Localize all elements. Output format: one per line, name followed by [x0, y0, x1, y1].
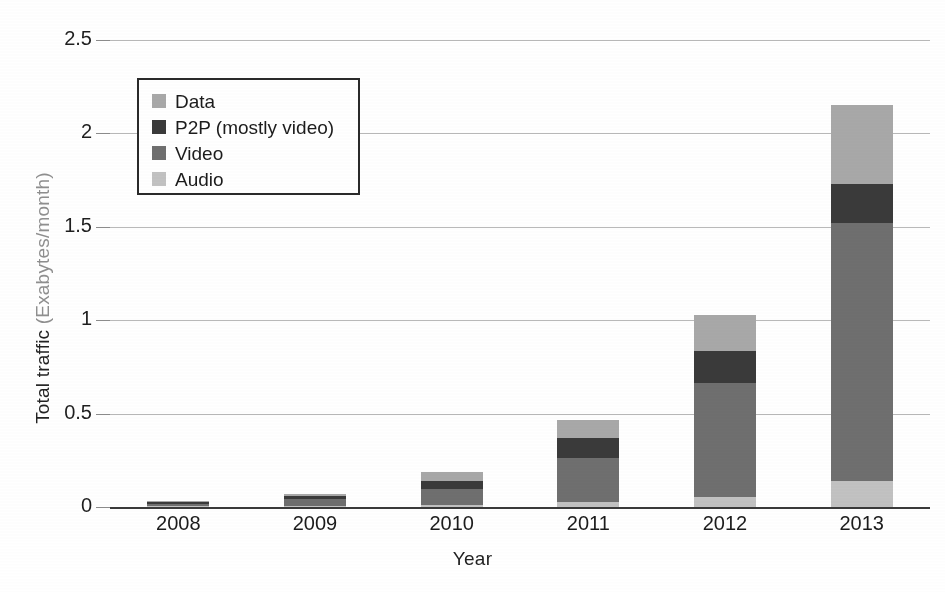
bar-2010[interactable] [421, 472, 483, 507]
y-tick-dash [96, 507, 110, 508]
legend-swatch-p2p [152, 120, 166, 134]
bar-segment-audio-2012 [694, 497, 756, 507]
gridline-1.5 [110, 227, 930, 228]
y-tick-0.5: 0.5 [30, 401, 92, 424]
bar-segment-p2p-2010 [421, 481, 483, 489]
bar-segment-audio-2010 [421, 505, 483, 507]
y-tick-dash [96, 414, 110, 415]
gridline-0 [110, 507, 930, 509]
x-tick-2010: 2010 [392, 512, 512, 535]
bar-2011[interactable] [557, 420, 619, 507]
y-tick-1: 1 [30, 307, 92, 330]
x-axis-title: Year [0, 548, 945, 570]
gridline-2.5 [110, 40, 930, 41]
bar-2009[interactable] [284, 494, 346, 507]
gridline-0.5 [110, 414, 930, 415]
bar-segment-p2p-2011 [557, 438, 619, 458]
y-tick-2.5: 2.5 [30, 27, 92, 50]
x-tick-2011: 2011 [528, 512, 648, 535]
bar-segment-audio-2013 [831, 481, 893, 507]
x-tick-2008: 2008 [118, 512, 238, 535]
x-tick-2009: 2009 [255, 512, 375, 535]
bar-segment-audio-2009 [284, 506, 346, 507]
bar-segment-video-2011 [557, 458, 619, 503]
y-tick-1.5: 1.5 [30, 214, 92, 237]
legend-swatch-video [152, 146, 166, 160]
chart-legend: Data P2P (mostly video) Video Audio [137, 78, 360, 195]
bar-segment-video-2012 [694, 383, 756, 497]
bar-segment-video-2013 [831, 223, 893, 481]
y-axis-title-units: (Exabytes/month) [32, 172, 53, 324]
legend-item-audio: Audio [152, 166, 358, 192]
bar-segment-p2p-2012 [694, 351, 756, 383]
bar-2008[interactable] [147, 501, 209, 507]
legend-label-p2p: P2P (mostly video) [175, 118, 334, 137]
bar-segment-data-2013 [831, 105, 893, 183]
legend-swatch-data [152, 94, 166, 108]
y-tick-dash [96, 227, 110, 228]
gridline-1 [110, 320, 930, 321]
legend-item-video: Video [152, 140, 358, 166]
y-tick-dash [96, 320, 110, 321]
chart-figure: Total traffic (Exabytes/month) 00.511.52… [0, 0, 945, 592]
bar-2012[interactable] [694, 315, 756, 507]
bar-segment-data-2012 [694, 315, 756, 351]
bar-segment-data-2010 [421, 472, 483, 481]
legend-label-video: Video [175, 144, 223, 163]
bar-segment-video-2010 [421, 489, 483, 505]
x-tick-2013: 2013 [802, 512, 922, 535]
bar-segment-audio-2008 [147, 506, 209, 507]
y-tick-0: 0 [30, 494, 92, 517]
legend-label-data: Data [175, 92, 215, 111]
bar-segment-data-2011 [557, 420, 619, 438]
y-tick-2: 2 [30, 120, 92, 143]
y-tick-dash [96, 40, 110, 41]
y-tick-dash [96, 133, 110, 134]
legend-item-p2p: P2P (mostly video) [152, 114, 358, 140]
legend-swatch-audio [152, 172, 166, 186]
bar-2013[interactable] [831, 105, 893, 507]
bar-segment-audio-2011 [557, 502, 619, 507]
legend-label-audio: Audio [175, 170, 224, 189]
legend-item-data: Data [152, 88, 358, 114]
bar-segment-p2p-2013 [831, 184, 893, 223]
x-tick-2012: 2012 [665, 512, 785, 535]
